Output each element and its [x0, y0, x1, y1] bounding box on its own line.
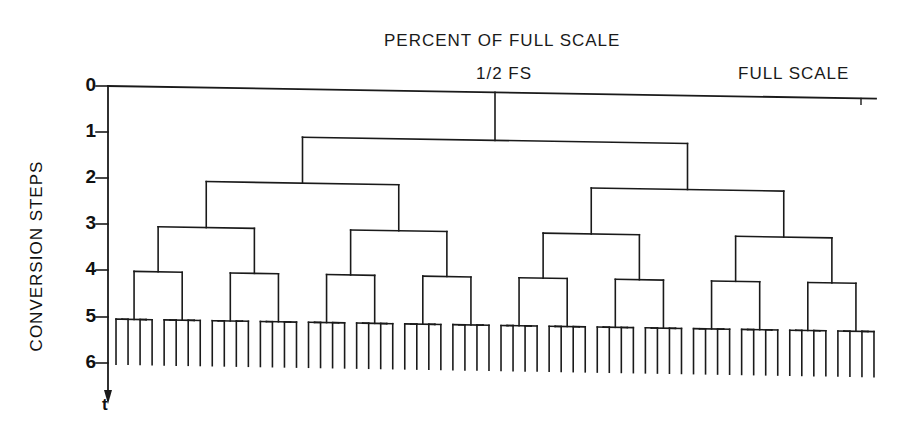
tree-bar — [808, 283, 856, 284]
y-tick-1: 1 — [76, 120, 96, 142]
half-scale-label: 1/2 FS — [476, 64, 532, 84]
full-scale-label: FULL SCALE — [738, 64, 849, 84]
tree-bar — [230, 273, 278, 274]
y-tick-6: 6 — [76, 351, 96, 373]
chart-title: PERCENT OF FULL SCALE — [384, 31, 620, 51]
tree-bar — [519, 278, 567, 279]
tree-bar — [351, 230, 447, 232]
time-arrow-label: t — [102, 395, 108, 415]
y-tick-4: 4 — [76, 258, 96, 280]
tree-bar — [134, 271, 182, 272]
tree-bar — [158, 227, 254, 229]
tree-bar — [736, 236, 832, 238]
y-tick-3: 3 — [76, 212, 96, 234]
y-tick-2: 2 — [76, 166, 96, 188]
y-tick-5: 5 — [76, 305, 96, 327]
y-tick-0: 0 — [76, 74, 96, 96]
tree-bar — [712, 281, 760, 282]
tree-bar — [327, 275, 375, 276]
tree-bar — [543, 233, 639, 235]
full-scale-line — [108, 86, 876, 99]
y-axis-label: CONVERSION STEPS — [27, 161, 47, 352]
tree-bar — [615, 279, 663, 280]
tree-bar — [423, 276, 471, 277]
